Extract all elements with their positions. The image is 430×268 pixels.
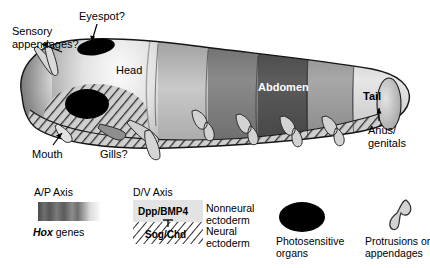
figure-legend: A/P Axis D/V Axis Hox genes bbox=[0, 186, 426, 268]
body-segment-posterior-abdomen bbox=[308, 20, 356, 170]
legend-nonneural-ectoderm: Nonneural ectoderm bbox=[206, 203, 254, 226]
legend-protrusions-label: Protrusions or appendages bbox=[365, 236, 430, 259]
photosensitive-organ-ventral bbox=[65, 89, 109, 119]
legend-photosensitive-swatch bbox=[279, 202, 325, 232]
body-segment-abdomen bbox=[258, 20, 310, 170]
legend-dv-axis-title: D/V Axis bbox=[133, 186, 173, 198]
body-segment-anterior-abdomen bbox=[208, 20, 260, 170]
legend-appendage-swatch bbox=[388, 198, 414, 232]
label-tail: Tail bbox=[363, 90, 381, 102]
legend-photosensitive-label: Photosensitive organs bbox=[276, 236, 344, 259]
legend-sog-chd-label: Sog/Chd bbox=[145, 229, 186, 240]
label-eyespot: Eyespot? bbox=[79, 10, 125, 22]
label-head: Head bbox=[116, 64, 142, 76]
label-anus-genitals: Anus/ genitals bbox=[368, 124, 406, 149]
legend-neural-ectoderm: Neural ectoderm bbox=[206, 226, 250, 249]
hox-genes-rest: genes bbox=[53, 226, 85, 238]
label-gills: Gills? bbox=[100, 148, 128, 160]
legend-ap-axis-title: A/P Axis bbox=[34, 186, 73, 198]
label-mouth: Mouth bbox=[32, 148, 63, 160]
label-sensory-appendages: Sensory appendages? bbox=[12, 25, 79, 50]
hox-gradient-swatch bbox=[38, 202, 100, 221]
tail-cap bbox=[377, 78, 401, 130]
legend-dpp-bmp4-label: Dpp/BMP4 bbox=[138, 206, 188, 217]
legend-hox-genes-label: Hox genes bbox=[33, 226, 84, 238]
label-abdomen: Abdomen bbox=[258, 81, 309, 93]
hox-italic: Hox bbox=[33, 226, 53, 238]
